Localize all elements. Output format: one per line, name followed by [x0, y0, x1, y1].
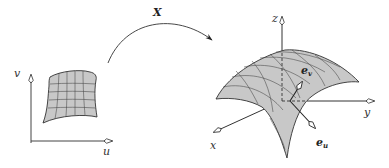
y-axis-label: y	[363, 106, 371, 119]
tangent-u-label: eu	[316, 136, 328, 150]
parameter-domain: v u	[14, 67, 112, 158]
surface-3d: z y x ev eu	[210, 12, 374, 158]
parameter-patch	[43, 71, 97, 123]
diagram-svg: v u X	[0, 0, 389, 168]
mapping-arrow	[108, 24, 212, 63]
u-axis-label: u	[103, 145, 110, 158]
mapping: X	[108, 6, 212, 63]
tangent-u-base: e	[316, 136, 323, 149]
z-axis-label: z	[271, 12, 278, 25]
tangent-u-sub: u	[323, 141, 328, 150]
v-axis-label: v	[14, 67, 21, 80]
mapping-label: X	[152, 6, 162, 19]
x-axis-label: x	[210, 139, 217, 152]
diagram-canvas: v u X	[0, 0, 389, 168]
tangent-v-base: e	[301, 64, 308, 77]
